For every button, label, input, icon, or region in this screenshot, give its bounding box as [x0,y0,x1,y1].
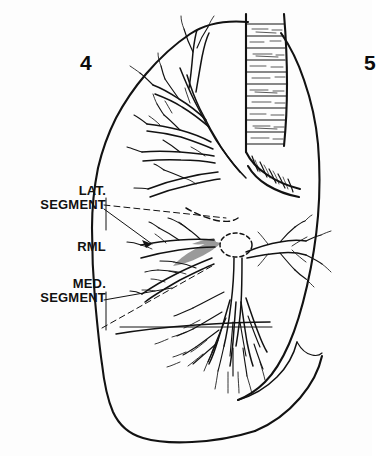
posterior-branch-a [153,85,206,120]
bronchus-intermedius-cartilage-rings [252,156,293,192]
med-segment-solid-leader [104,288,172,300]
lat-segment-dashed-leader [104,205,226,218]
upper-radiating-2a [142,151,214,156]
rml-bronchus-shading [173,241,221,266]
label-lat-segment: LAT. SEGMENT [10,184,106,212]
figure-number-left: 4 [80,51,92,75]
label-rml: RML [10,240,106,254]
trachea-right-wall [284,14,287,146]
upper-lobe-bronchial-tree [127,16,246,197]
upper-radiating-2b [143,160,215,163]
bronchus-intermedius-group [246,152,300,197]
upper-radiating-1b [147,131,213,149]
apical-branch-b [196,33,209,92]
superior-segment-branch [246,240,306,252]
lat-segment-solid-leader [104,209,152,244]
upper-radiating-3b [150,179,220,197]
lung-outline-anterior [92,22,255,443]
middle-lobe-bronchial-tree [127,218,215,302]
hilum-dashed-ellipse [220,233,252,257]
lower-lobe-bronchial-tree [155,215,331,394]
lung-outline-base [255,356,322,431]
label-med-segment: MED. SEGMENT [10,277,106,305]
lung-outline-posterior [238,33,320,400]
figure-number-right: 5 [364,51,376,75]
upper-radiating-1a [147,124,211,142]
apical-branch-a [189,30,197,88]
bronchus-intermedius-lower-wall [248,166,299,197]
lung-recess-inner [297,342,322,355]
trachea-group [246,14,287,152]
hilum-group [173,208,252,266]
bronchus-intermedius-upper-wall [246,152,300,189]
